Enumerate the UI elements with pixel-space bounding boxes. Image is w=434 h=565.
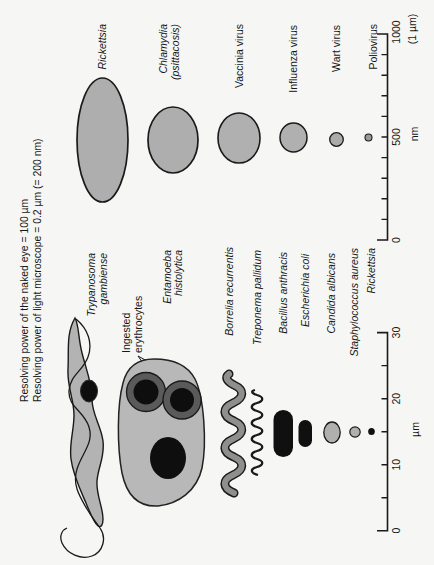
title-line2: Resolving power of light microscope = 0.… — [32, 138, 43, 402]
trypanosoma-label-line2: gambiense — [97, 253, 109, 305]
um-tick-0: 0 — [390, 527, 402, 533]
staphylococcus-label: Staphylococcus aureus — [348, 247, 360, 356]
candida-figure: Candida albicans — [324, 252, 340, 443]
chlamydia-shape — [148, 107, 198, 173]
treponema-label: Treponema pallidum — [251, 250, 263, 345]
candida-label: Candida albicans — [325, 252, 337, 333]
ecoli-rod-shape — [299, 420, 313, 447]
nm-tick-0: 0 — [390, 237, 402, 243]
nm-axis-equiv-label: (1 µm) — [406, 14, 418, 45]
borrelia-label: Borrelia recurrentis — [223, 246, 235, 335]
bacillus-rod-shape — [274, 410, 294, 457]
wart-virus-label: Wart virus — [330, 25, 342, 72]
chlamydia-figure: Chlamydia (psittacosis) — [148, 24, 198, 173]
rickettsia-label: Rickettsia — [96, 24, 108, 70]
title-line1: Resolving power of the naked eye = 100 µ… — [19, 199, 30, 402]
influenza-label: Influenza virus — [287, 25, 299, 93]
bacillus-label: Bacillus anthracis — [277, 251, 289, 333]
rickettsia-shape — [77, 78, 128, 202]
poliovirus-shape — [365, 134, 372, 141]
treponema-figure: Treponema pallidum — [251, 250, 263, 475]
um-tick-30: 30 — [390, 327, 402, 339]
entamoeba-figure: Entamoeba histolytica — [118, 250, 204, 506]
chlamydia-label-line1: Chlamydia — [157, 24, 169, 74]
candida-shape — [324, 422, 340, 443]
treponema-shape — [252, 390, 263, 475]
trypanosoma-label-line1: Trypanosoma — [85, 253, 97, 317]
bacillus-figure: Bacillus anthracis — [274, 251, 294, 457]
vaccinia-figure: Vaccinia virus — [218, 24, 260, 163]
wart-virus-figure: Wart virus — [330, 25, 344, 146]
borrelia-figure: Borrelia recurrentis — [223, 246, 242, 493]
vaccinia-label: Vaccinia virus — [233, 24, 245, 88]
um-tick-10: 10 — [390, 459, 402, 471]
um-tick-20: 20 — [390, 393, 402, 405]
trypanosoma-kinetoplast — [81, 380, 98, 402]
ecoli-label: Escherichia coli — [299, 253, 311, 327]
rickettsia-small-label: Rickettsia — [365, 248, 377, 294]
vaccinia-shape — [218, 113, 260, 163]
poliovirus-label: Poliovirus — [367, 24, 379, 70]
trypanosoma-body-shape — [68, 318, 103, 527]
annotation-line1: Ingested — [120, 313, 132, 353]
influenza-figure: Influenza virus — [280, 25, 307, 152]
rickettsia-small-figure: Rickettsia — [365, 248, 377, 435]
nm-axis-unit: nm — [408, 126, 420, 141]
influenza-shape — [280, 123, 307, 152]
rickettsia-small-shape — [368, 428, 375, 435]
annotation-line2: erythrocytes — [132, 296, 144, 353]
scanned-page: Resolving power of the naked eye = 100 µ… — [0, 0, 434, 565]
rotated-figure: Resolving power of the naked eye = 100 µ… — [0, 0, 434, 565]
poliovirus-figure: Poliovirus — [365, 24, 379, 141]
entamoeba-nucleus — [150, 437, 186, 479]
um-axis-unit: µm — [409, 422, 421, 437]
nm-axis: 0 500 1000 nm (1 µm) — [377, 14, 420, 243]
um-axis: 0 10 20 30 µm — [377, 327, 421, 534]
nm-axis-minor-ticks — [382, 55, 388, 220]
entamoeba-label-line2: histolytica — [172, 250, 184, 296]
staphylococcus-shape — [350, 427, 360, 437]
rickettsia-figure: Rickettsia — [77, 24, 128, 202]
erythrocyte-1-core — [134, 380, 159, 405]
size-comparison-diagram: Resolving power of the naked eye = 100 µ… — [0, 0, 434, 565]
chlamydia-label-line2: (psittacosis) — [169, 24, 181, 80]
ecoli-figure: Escherichia coli — [299, 253, 313, 447]
staphylococcus-figure: Staphylococcus aureus — [348, 247, 360, 437]
wart-virus-shape — [330, 133, 344, 147]
nm-tick-500: 500 — [390, 128, 402, 146]
nm-tick-1000: 1000 — [390, 20, 402, 44]
um-axis-minor-ticks — [382, 366, 388, 498]
erythrocyte-2-core — [170, 388, 194, 412]
trypanosoma-figure: Trypanosoma gambiense — [61, 253, 109, 557]
